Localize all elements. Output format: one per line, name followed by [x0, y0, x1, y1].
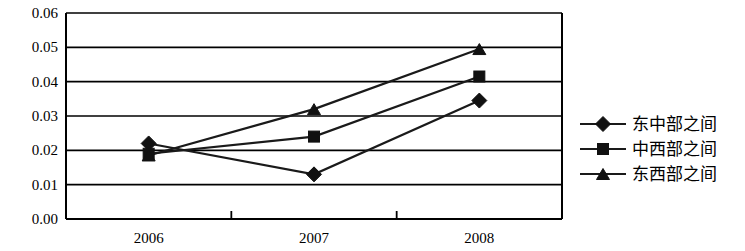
y-axis-tick-labels: 0.060.050.040.030.020.010.00 — [32, 5, 59, 227]
x-axis-tick-labels: 200620072008 — [134, 230, 495, 246]
legend-square-icon — [598, 144, 609, 155]
y-tick-label: 0.01 — [32, 177, 58, 193]
legend-item-triangle[interactable]: 东西部之间 — [580, 165, 717, 184]
y-tick-label: 0.05 — [32, 39, 58, 55]
legend-label: 东西部之间 — [632, 165, 717, 184]
y-tick-label: 0.04 — [32, 74, 59, 90]
y-tick-label: 0.00 — [32, 211, 58, 227]
x-tick-label: 2007 — [299, 230, 330, 246]
legend-label: 中西部之间 — [632, 140, 717, 159]
chart-legend: 东中部之间中西部之间东西部之间 — [580, 115, 717, 184]
y-tick-label: 0.06 — [32, 5, 59, 21]
x-tick-label: 2006 — [134, 230, 165, 246]
legend-item-square[interactable]: 中西部之间 — [580, 140, 717, 159]
chart-canvas: 0.060.050.040.030.020.010.00 20062007200… — [0, 0, 745, 251]
y-tick-label: 0.02 — [32, 142, 58, 158]
legend-label: 东中部之间 — [632, 115, 717, 134]
data-point-square-icon — [309, 131, 320, 142]
legend-item-diamond[interactable]: 东中部之间 — [580, 115, 717, 134]
y-tick-label: 0.03 — [32, 108, 58, 124]
legend-diamond-icon — [596, 117, 611, 132]
x-tick-label: 2008 — [464, 230, 494, 246]
line-chart: 0.060.050.040.030.020.010.00 20062007200… — [0, 0, 745, 251]
data-point-square-icon — [474, 71, 485, 82]
